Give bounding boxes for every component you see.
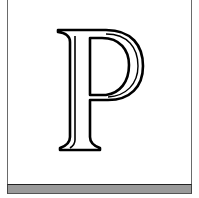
initial-cap-letter-p xyxy=(50,22,150,157)
footer-bar xyxy=(7,184,192,194)
letter-p-counter xyxy=(90,38,129,95)
